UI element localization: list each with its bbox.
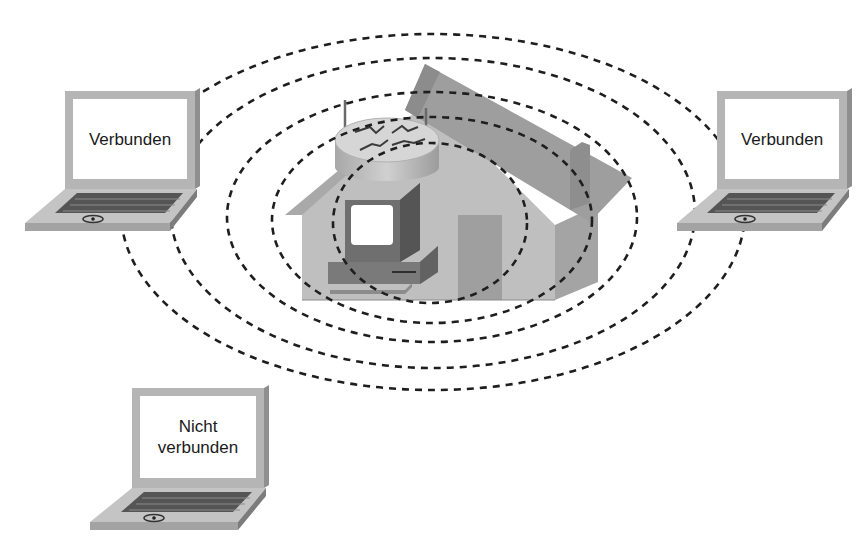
status-text: Verbunden (89, 129, 171, 150)
laptop-keyboard (707, 193, 835, 213)
laptop-left-status: Verbunden (73, 99, 187, 179)
laptop-right-status: Verbunden (725, 99, 839, 179)
monitor-screen (351, 205, 393, 245)
laptop-keyboard (121, 492, 252, 512)
house-chimney (570, 142, 590, 210)
laptop-bottom-left-status: Nicht verbunden (140, 396, 256, 478)
status-text: Verbunden (741, 129, 823, 150)
laptop-keyboard (55, 193, 183, 213)
status-text-line1: Nicht (179, 416, 218, 437)
house-door (458, 215, 502, 300)
status-text-line2: verbunden (158, 437, 238, 458)
wireless-coverage-diagram (0, 0, 867, 547)
